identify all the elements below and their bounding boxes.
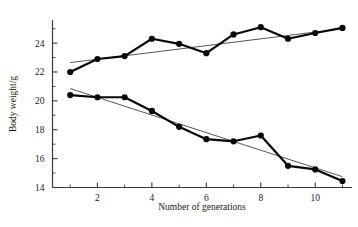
- y-tick-label: 16: [35, 154, 45, 164]
- data-point-marker: [203, 50, 209, 56]
- data-point-marker: [149, 36, 155, 42]
- y-axis-title: Body weight/g: [8, 76, 18, 132]
- y-tick-label: 18: [35, 125, 45, 135]
- x-tick-label: 4: [150, 193, 155, 203]
- y-axis-tick-labels: 141618202224: [35, 39, 45, 193]
- data-point-marker: [285, 36, 291, 42]
- data-point-marker: [122, 53, 128, 59]
- data-point-marker: [203, 136, 209, 142]
- x-axis-title: Number of generations: [158, 202, 246, 212]
- axes-group: [53, 20, 353, 188]
- data-point-marker: [258, 132, 264, 138]
- y-axis-ticks: [53, 29, 58, 188]
- data-point-marker: [230, 31, 236, 37]
- data-point-marker: [67, 69, 73, 75]
- trend-line-downward-selected-line: [70, 89, 342, 177]
- x-tick-label: 8: [258, 193, 263, 203]
- x-tick-label: 6: [204, 193, 209, 203]
- data-point-marker: [149, 108, 155, 114]
- data-point-marker: [67, 92, 73, 98]
- y-tick-label: 22: [35, 67, 45, 77]
- data-point-marker: [94, 94, 100, 100]
- x-tick-label: 10: [310, 193, 320, 203]
- series-markers-group: [67, 24, 345, 184]
- data-point-marker: [339, 178, 345, 184]
- x-tick-label: 2: [95, 193, 100, 203]
- data-point-marker: [230, 138, 236, 144]
- y-tick-label: 20: [35, 96, 45, 106]
- x-axis-tick-labels: 246810: [95, 193, 320, 203]
- y-tick-label: 14: [35, 183, 45, 193]
- x-axis-ticks: [70, 183, 342, 188]
- y-tick-label: 24: [35, 39, 45, 49]
- chart-plot-area: 141618202224 246810 Number of generation…: [0, 0, 358, 227]
- data-point-marker: [312, 30, 318, 36]
- data-point-marker: [312, 166, 318, 172]
- data-point-marker: [176, 124, 182, 130]
- data-point-marker: [339, 25, 345, 31]
- data-point-marker: [258, 24, 264, 30]
- data-point-marker: [122, 94, 128, 100]
- data-point-marker: [285, 163, 291, 169]
- chart-figure: 141618202224 246810 Number of generation…: [0, 0, 358, 227]
- data-point-marker: [94, 56, 100, 62]
- data-point-marker: [176, 41, 182, 47]
